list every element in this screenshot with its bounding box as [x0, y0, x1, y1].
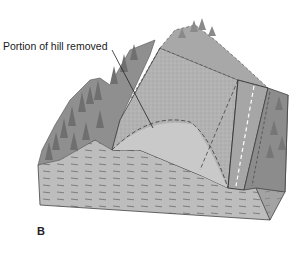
callout-portion-of-hill-removed: Portion of hill removed [3, 40, 107, 52]
block-diagram [0, 0, 307, 253]
panel-label: B [37, 225, 45, 237]
